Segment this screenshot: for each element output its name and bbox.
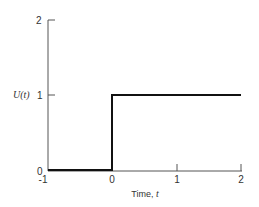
x-axis-label: Time, t (131, 188, 159, 199)
x-tick-label-2: 2 (238, 174, 244, 185)
x-tick-label-1: 1 (174, 174, 180, 185)
step-function-line (48, 95, 241, 170)
y-tick-label-1: 1 (37, 90, 43, 101)
x-axis-label-var: t (156, 188, 159, 199)
y-tick-label-2: 2 (36, 15, 42, 26)
x-tick-label-neg1: -1 (39, 174, 48, 185)
step-function-chart: 2 1 0 -1 0 1 2 U(t) Time, t (0, 0, 259, 207)
x-axis-label-text: Time, (131, 189, 156, 199)
x-tick-label-0: 0 (109, 174, 115, 185)
y-axis-label: U(t) (13, 89, 30, 101)
